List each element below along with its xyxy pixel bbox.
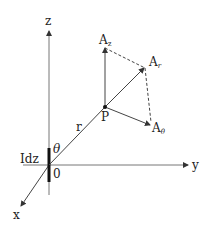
radius-line (49, 107, 105, 165)
angle-label: θ (53, 142, 61, 156)
dashed-az-ar (105, 48, 145, 68)
radius-label: r (76, 120, 82, 134)
dashed-ar-atheta (145, 68, 151, 122)
vector-a-theta (105, 107, 150, 125)
x-axis (21, 165, 49, 206)
current-element-label: Idz (20, 152, 39, 166)
z-axis-label: z (45, 14, 51, 28)
point-label: P (101, 110, 109, 124)
point-p-dot (103, 105, 107, 109)
origin-label: 0 (53, 167, 61, 181)
vector-a-theta-label: Aθ (151, 121, 166, 136)
x-axis-label: x (13, 208, 20, 222)
vector-a-r (105, 68, 144, 107)
y-axis-label: y (191, 158, 199, 172)
vector-a-r-label: Ar (148, 55, 162, 70)
vector-a-z-label: Az (98, 33, 112, 48)
spherical-coordinate-diagram: z y x 0 Idz θ r P Az Ar Aθ (0, 0, 211, 232)
